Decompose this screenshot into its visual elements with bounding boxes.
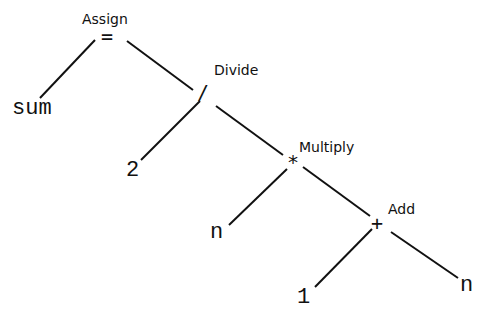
- leaf-two: 2: [126, 160, 139, 182]
- edge-divide-multiply: [216, 106, 283, 155]
- add-node-label: Add: [388, 202, 415, 216]
- divide-operator: /: [197, 82, 209, 102]
- tree-edges: [0, 0, 486, 320]
- edge-divide-two: [141, 101, 200, 160]
- edge-assign-sum: [40, 40, 95, 98]
- edge-assign-divide: [127, 41, 193, 90]
- edge-add-n2: [391, 232, 458, 278]
- assign-operator: =: [101, 26, 113, 46]
- add-operator: +: [371, 213, 383, 233]
- expression-tree-diagram: Assign = Divide / Multiply * Add + sum 2…: [0, 0, 486, 320]
- multiply-operator: *: [287, 152, 299, 172]
- multiply-node-label: Multiply: [299, 140, 354, 154]
- edge-add-one: [315, 229, 372, 287]
- leaf-sum: sum: [12, 98, 52, 120]
- leaf-n-left: n: [210, 222, 223, 244]
- leaf-n-right: n: [460, 275, 473, 297]
- leaf-one: 1: [297, 287, 310, 309]
- edge-multiply-n1: [229, 169, 287, 225]
- divide-node-label: Divide: [214, 63, 258, 77]
- edge-multiply-add: [303, 167, 370, 216]
